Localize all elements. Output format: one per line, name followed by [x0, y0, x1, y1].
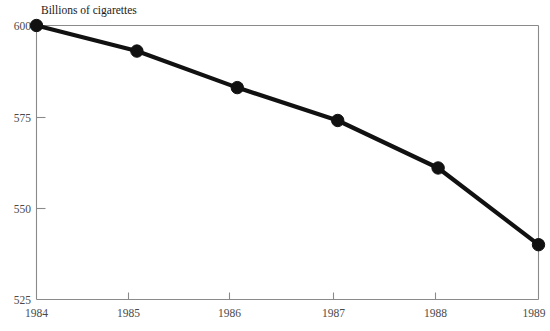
data-point-1986: [231, 81, 243, 93]
data-point-1987: [332, 114, 344, 126]
data-point-1989: [532, 239, 544, 251]
y-axis-label-575: 575: [14, 112, 32, 124]
series-markers-group: [30, 19, 544, 251]
y-axis-label-550: 550: [14, 203, 32, 215]
x-axis-label-1987: 1987: [322, 307, 345, 319]
x-axis-label-1984: 1984: [25, 307, 48, 319]
y-axis-label-525: 525: [14, 294, 32, 306]
data-point-1988: [432, 162, 444, 174]
x-axis-label-1989: 1989: [523, 307, 546, 319]
data-point-1985: [131, 45, 143, 57]
line-chart: 600 575 550 525 1984 1985 1986 1987 1988…: [0, 0, 550, 331]
series-line-cigarettes: [37, 26, 539, 245]
x-axis-label-1985: 1985: [117, 307, 140, 319]
y-axis-label-600: 600: [14, 20, 32, 32]
chart-title: Billions of cigarettes: [41, 4, 137, 17]
x-axis-label-1988: 1988: [424, 307, 447, 319]
x-axis-label-1986: 1986: [218, 307, 241, 319]
chart-container: 600 575 550 525 1984 1985 1986 1987 1988…: [0, 0, 550, 331]
data-point-1984: [30, 19, 42, 31]
